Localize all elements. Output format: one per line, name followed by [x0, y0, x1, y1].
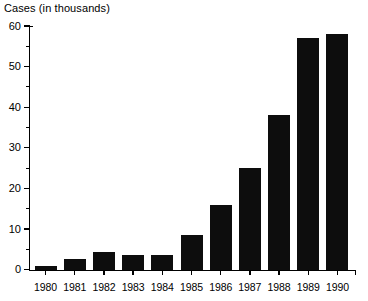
bar-1983	[122, 255, 144, 269]
y-tick-label-60: 60	[0, 21, 21, 32]
x-tick-label-1989: 1989	[294, 281, 323, 293]
x-tick-1988	[278, 271, 279, 275]
x-tick-label-1987: 1987	[235, 281, 264, 293]
bar-1986	[210, 205, 232, 270]
y-tick-label-40: 40	[0, 102, 21, 113]
bar-1984	[151, 255, 173, 270]
y-minor-tick-55	[26, 46, 30, 47]
bar-chart: Cases (in thousands) 0102030405060 19801…	[0, 0, 368, 301]
y-minor-tick-35	[26, 127, 30, 128]
x-tick-1983	[132, 271, 133, 275]
y-minor-tick-45	[26, 86, 30, 87]
x-tick-1985	[191, 271, 192, 275]
x-tick-1987	[249, 271, 250, 275]
x-tick-label-1982: 1982	[89, 281, 118, 293]
bar-1990	[326, 34, 348, 269]
x-tick-label-1985: 1985	[177, 281, 206, 293]
y-tick-0	[24, 269, 30, 270]
y-minor-tick-25	[26, 168, 30, 169]
bar-1989	[297, 38, 319, 269]
y-tick-label-20: 20	[0, 183, 21, 194]
x-tick-1980	[45, 271, 46, 275]
bar-1980	[35, 266, 57, 270]
y-minor-tick-15	[26, 208, 30, 209]
x-tick-label-1981: 1981	[60, 281, 89, 293]
y-axis-line	[29, 26, 30, 271]
bar-1988	[268, 115, 290, 269]
x-tick-1986	[220, 271, 221, 275]
x-tick-label-1980: 1980	[31, 281, 60, 293]
y-tick-label-10: 10	[0, 224, 21, 235]
y-tick-60	[24, 25, 30, 26]
bar-1987	[239, 168, 261, 270]
y-tick-30	[24, 147, 30, 148]
x-tick-label-1983: 1983	[119, 281, 148, 293]
y-tick-20	[24, 188, 30, 189]
x-axis-right-cap	[355, 270, 356, 275]
y-minor-tick-5	[26, 249, 30, 250]
x-tick-1990	[337, 271, 338, 275]
x-tick-label-1988: 1988	[264, 281, 293, 293]
x-tick-label-1984: 1984	[148, 281, 177, 293]
y-tick-40	[24, 107, 30, 108]
y-tick-label-50: 50	[0, 61, 21, 72]
y-tick-label-30: 30	[0, 142, 21, 153]
x-tick-1982	[103, 271, 104, 275]
x-tick-1984	[162, 271, 163, 275]
bar-1981	[64, 259, 86, 269]
x-tick-label-1990: 1990	[323, 281, 352, 293]
x-tick-label-1986: 1986	[206, 281, 235, 293]
y-tick-50	[24, 66, 30, 67]
bar-1985	[181, 235, 203, 270]
plot-area: 0102030405060 19801981198219831984198519…	[0, 0, 368, 301]
y-tick-10	[24, 228, 30, 229]
y-tick-label-0: 0	[0, 264, 21, 275]
bar-1982	[93, 252, 115, 269]
x-tick-1981	[74, 271, 75, 275]
x-tick-1989	[308, 271, 309, 275]
